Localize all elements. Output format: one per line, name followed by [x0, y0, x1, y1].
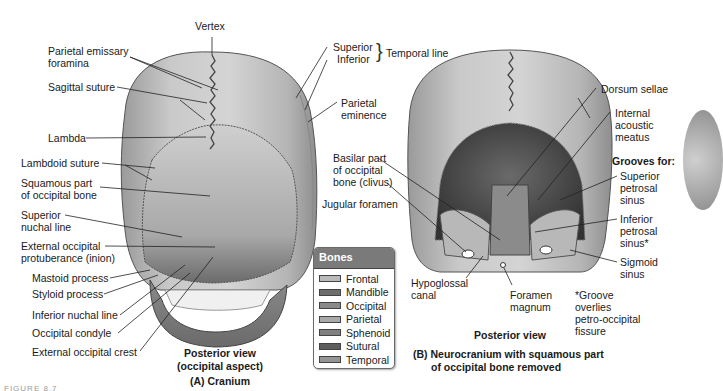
swatch-icon — [319, 289, 341, 296]
label-line: of occipital bone — [21, 189, 97, 201]
label-temporal-superior: Superior — [333, 41, 373, 53]
caption-b-view: Posterior view — [460, 329, 560, 342]
swatch-icon — [319, 356, 341, 363]
neurocranium-posterior-view — [408, 50, 612, 272]
label-external-occipital-protuberance: External occipital protuberance (inion) — [21, 240, 115, 264]
label-superior-nuchal-line: Superior nuchal line — [21, 209, 71, 233]
swatch-icon — [319, 343, 341, 350]
page-edge-tab — [683, 110, 723, 210]
label-sigmoid-sinus: Sigmoid sinus — [620, 256, 658, 280]
legend-label: Occipital — [346, 300, 386, 312]
label-line: Squamous part — [21, 177, 97, 189]
label-line: petro-occipital — [575, 313, 640, 325]
label-squamous-part: Squamous part of occipital bone — [21, 177, 97, 201]
label-styloid-process: Styloid process — [32, 288, 103, 300]
label-external-occipital-crest: External occipital crest — [32, 346, 137, 358]
caption-line: Posterior view — [170, 347, 270, 360]
legend-label: Sphenoid — [346, 327, 390, 339]
caption-b-title: (B) Neurocranium with squamous part of o… — [413, 348, 604, 374]
label-line: Sigmoid — [620, 256, 658, 268]
label-mastoid-process: Mastoid process — [32, 272, 108, 284]
label-line: *Groove — [575, 289, 640, 301]
label-line: protuberance (inion) — [21, 252, 115, 264]
temporal-line-brace: } — [376, 40, 383, 62]
caption-line: (B) Neurocranium with squamous part — [413, 348, 604, 361]
label-vertex: Vertex — [195, 20, 225, 32]
swatch-icon — [319, 275, 341, 282]
label-basilar-part: Basilar part of occipital bone (clivus) — [333, 152, 393, 188]
label-line: of occipital — [333, 164, 393, 176]
caption-line: (occipital aspect) — [170, 360, 270, 373]
legend-item-parietal: Parietal — [314, 313, 394, 327]
label-line: Foramen — [510, 289, 552, 301]
label-line: overlies — [575, 301, 640, 313]
legend-item-temporal: Temporal — [314, 353, 394, 367]
label-line: eminence — [341, 109, 387, 121]
label-line: acoustic — [615, 119, 654, 131]
caption-a-view: Posterior view (occipital aspect) — [170, 347, 270, 373]
legend-item-occipital: Occipital — [314, 299, 394, 313]
label-line: Inferior — [620, 213, 657, 225]
label-line: Basilar part — [333, 152, 393, 164]
label-line: sinus — [620, 194, 660, 206]
cranium-posterior-view — [121, 52, 317, 347]
swatch-icon — [319, 316, 341, 323]
label-line: External occipital — [21, 240, 115, 252]
label-line: meatus — [615, 131, 654, 143]
label-line: Superior — [21, 209, 71, 221]
label-sagittal-suture: Sagittal suture — [48, 81, 115, 93]
label-line: foramina — [48, 57, 129, 69]
label-line: Hypoglossal — [411, 277, 468, 289]
label-line: petrosal — [620, 182, 660, 194]
caption-line: of occipital bone removed — [413, 361, 604, 374]
label-temporal-line: Temporal line — [386, 47, 448, 59]
label-inferior-petrosal-sinus: Inferior petrosal sinus* — [620, 213, 657, 249]
legend-label: Sutural — [346, 340, 379, 352]
legend-item-frontal: Frontal — [314, 272, 394, 286]
label-line: petrosal — [620, 225, 657, 237]
label-foramen-magnum: Foramen magnum — [510, 289, 552, 313]
label-lambda: Lambda — [48, 132, 86, 144]
label-line: canal — [411, 289, 468, 301]
label-jugular-foramen: Jugular foramen — [322, 198, 398, 210]
label-internal-acoustic-meatus: Internal acoustic meatus — [615, 107, 654, 143]
label-line: sinus* — [620, 237, 657, 249]
legend-item-mandible: Mandible — [314, 286, 394, 300]
caption-a-title: (A) Cranium — [170, 375, 270, 388]
legend-label: Temporal — [346, 354, 389, 366]
legend-label: Frontal — [346, 273, 379, 285]
label-parietal-emissary-foramina: Parietal emissary foramina — [48, 45, 129, 69]
swatch-icon — [319, 302, 341, 309]
label-line: magnum — [510, 301, 552, 313]
legend-title: Bones — [314, 248, 394, 269]
label-hypoglossal-canal: Hypoglossal canal — [411, 277, 468, 301]
label-lambdoid-suture: Lambdoid suture — [21, 157, 99, 169]
legend-item-sutural: Sutural — [314, 340, 394, 354]
legend-item-sphenoid: Sphenoid — [314, 326, 394, 340]
figure-number: FIGURE 8.7 — [4, 384, 58, 391]
label-line: Superior — [620, 170, 660, 182]
label-line: Parietal — [341, 97, 387, 109]
label-inferior-nuchal-line: Inferior nuchal line — [32, 309, 118, 321]
label-parietal-eminence: Parietal eminence — [341, 97, 387, 121]
label-line: Parietal emissary — [48, 45, 129, 57]
label-line: bone (clivus) — [333, 176, 393, 188]
label-line: fissure — [575, 325, 640, 337]
label-line: nuchal line — [21, 221, 71, 233]
label-temporal-inferior: Inferior — [337, 53, 370, 65]
label-dorsum-sellae: Dorsum sellae — [601, 83, 668, 95]
legend-label: Mandible — [346, 286, 389, 298]
label-line: Internal — [615, 107, 654, 119]
label-grooves-for: Grooves for: — [612, 155, 675, 167]
footnote-groove: *Groove overlies petro-occipital fissure — [575, 289, 640, 337]
label-superior-petrosal-sinus: Superior petrosal sinus — [620, 170, 660, 206]
label-occipital-condyle: Occipital condyle — [32, 327, 111, 339]
legend-label: Parietal — [346, 313, 382, 325]
bones-legend: Bones Frontal Mandible Occipital Parieta… — [313, 247, 395, 369]
swatch-icon — [319, 329, 341, 336]
label-line: sinus — [620, 268, 658, 280]
